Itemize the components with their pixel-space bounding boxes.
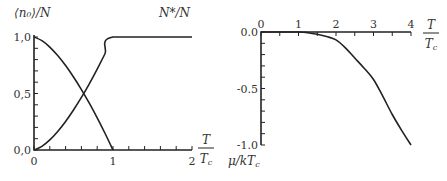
y-tick-label: -1.0	[237, 139, 258, 152]
left-ticks	[34, 37, 192, 150]
chart-right: 012340.0-0.5-1.0 T Tc μ/kTc	[228, 18, 439, 169]
left-series	[34, 37, 192, 150]
chart-left: 0120,00,51,0 ⟨n₀⟩/N N*/N T Tc	[14, 6, 215, 168]
y-tick-label: 0,0	[14, 144, 32, 157]
series-line-1	[34, 37, 113, 150]
x-tick-label: 1	[295, 18, 302, 31]
x-tick-label: 3	[370, 18, 377, 31]
y-tick-label: -0.5	[237, 83, 258, 96]
left-x-label-numerator: T	[202, 133, 211, 147]
figure: 0120,00,51,0 ⟨n₀⟩/N N*/N T Tc 012340.0-0…	[0, 0, 447, 181]
right-axes	[261, 32, 411, 145]
x-tick-label: 1	[110, 155, 117, 168]
right-x-label-numerator: T	[427, 18, 436, 32]
y-tick-label: 0.0	[241, 26, 259, 39]
left-y-label: ⟨n₀⟩/N	[14, 6, 51, 20]
x-tick-label: 2	[189, 155, 196, 168]
left-axes	[34, 35, 192, 150]
right-ticks	[261, 32, 411, 145]
x-tick-label: 2	[333, 18, 340, 31]
x-tick-label: 4	[408, 18, 415, 31]
series-line-1	[261, 32, 411, 145]
series-line-2	[34, 37, 192, 150]
right-y-label: μ/kTc	[228, 154, 260, 169]
right-tick-labels: 012340.0-0.5-1.0	[237, 18, 415, 152]
right-series	[261, 32, 411, 145]
right-y-label-n-star: N*/N	[158, 6, 191, 20]
left-x-label-denominator: Tc	[200, 152, 213, 167]
right-x-label-denominator: Tc	[425, 37, 438, 52]
x-tick-label: 0	[31, 155, 38, 168]
x-tick-label: 0	[258, 18, 265, 31]
y-tick-label: 0,5	[14, 88, 32, 101]
y-tick-label: 1,0	[14, 31, 32, 44]
